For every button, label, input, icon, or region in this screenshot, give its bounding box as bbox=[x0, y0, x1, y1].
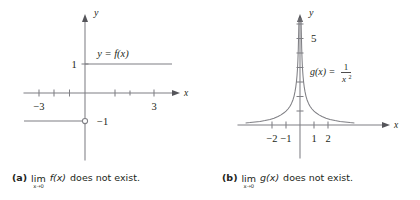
limit-word-a: lim bbox=[31, 174, 46, 184]
x-axis-arrow bbox=[172, 90, 180, 96]
panel-a: y x 1 −1 −3 3 y = f(x) (a) lim x→0 f(x) … bbox=[0, 0, 210, 200]
curve-label-f: y = f(x) bbox=[96, 48, 129, 60]
caption-function-a: f(x) bbox=[50, 172, 66, 183]
caption-text-a: does not exist. bbox=[70, 172, 140, 183]
caption-text-b: does not exist. bbox=[283, 172, 353, 183]
limit-operator-a: lim x→0 bbox=[31, 174, 46, 189]
y-tick-label-1: 1 bbox=[71, 59, 76, 70]
caption-function-b: g(x) bbox=[260, 172, 279, 183]
curve-label-g-lhs: g(x) = bbox=[310, 66, 335, 78]
x-tick-label-2: 2 bbox=[325, 133, 330, 144]
limit-subscript-a: x→0 bbox=[33, 184, 43, 189]
curve-label-g-numerator: 1 bbox=[344, 62, 349, 72]
graph-a: y x 1 −1 −3 3 y = f(x) bbox=[0, 0, 210, 168]
y-axis-arrow bbox=[297, 14, 303, 22]
x-tick-label-1: 1 bbox=[311, 133, 316, 144]
x-axis-arrow bbox=[382, 122, 390, 128]
axis-x-label: x bbox=[393, 120, 399, 130]
limit-subscript-b: x→0 bbox=[244, 184, 254, 189]
graph-b: y x 5 −2 −1 1 2 g(x) = 1 x 2 bbox=[210, 0, 420, 168]
limit-word-b: lim bbox=[241, 174, 256, 184]
x-tick-label-3: 3 bbox=[151, 101, 156, 112]
y-value-label-5: 5 bbox=[311, 32, 317, 44]
axis-x-label: x bbox=[183, 88, 189, 98]
caption-tag-a: (a) bbox=[12, 172, 27, 183]
axis-y-label: y bbox=[93, 7, 99, 18]
panel-b: y x 5 −2 −1 1 2 g(x) = 1 x 2 (b) lim x→0 bbox=[210, 0, 420, 200]
curve-label-g-denominator: x bbox=[341, 74, 346, 84]
x-tick-label--2: −2 bbox=[266, 133, 277, 144]
limit-operator-b: lim x→0 bbox=[241, 174, 256, 189]
y-axis-arrow bbox=[82, 14, 88, 22]
caption-a: (a) lim x→0 f(x) does not exist. bbox=[12, 172, 204, 188]
limits-figure: y x 1 −1 −3 3 y = f(x) (a) lim x→0 f(x) … bbox=[0, 0, 420, 200]
x-tick-label--3: −3 bbox=[33, 101, 44, 112]
x-tick-label--1: −1 bbox=[280, 133, 291, 144]
curve-label-g-exponent: 2 bbox=[349, 74, 352, 80]
axis-y-label: y bbox=[308, 7, 314, 18]
y-tick-label--1: −1 bbox=[97, 116, 108, 127]
caption-b: (b) lim x→0 g(x) does not exist. bbox=[222, 172, 414, 188]
caption-tag-b: (b) bbox=[222, 172, 237, 183]
g-curve-left-branch bbox=[246, 18, 299, 123]
open-circle-marker bbox=[82, 118, 87, 123]
